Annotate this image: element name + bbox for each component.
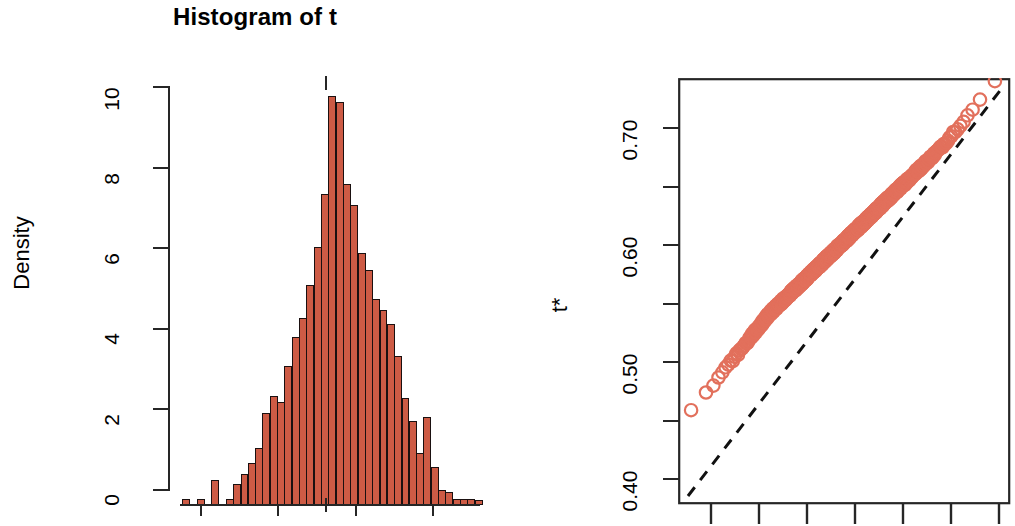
histogram-x-tickmark-2: [277, 504, 279, 516]
histogram-y-tick-10: 10: [100, 75, 124, 123]
histogram-y-tick-4: 4: [100, 319, 124, 359]
qq-scatter-area: [678, 78, 1015, 524]
histogram-y-tickmark-6: [153, 247, 170, 249]
qq-reference-line: [688, 88, 1002, 496]
histogram-bar: [211, 480, 219, 505]
page-title: Histogram of t: [0, 3, 510, 31]
histogram-y-tick-8: 8: [100, 159, 124, 199]
histogram-panel: Histogram of t Density 0 2 4 6 8 10: [0, 0, 510, 516]
histogram-y-tick-6: 6: [100, 239, 124, 279]
histogram-bars-area: [182, 85, 482, 505]
qq-panel: t* 0.40 0.50 0.60 0.70: [510, 0, 1015, 516]
histogram-y-axis-line: [168, 86, 170, 491]
qq-y-tick-050: 0.50: [618, 339, 642, 409]
histogram-y-tickmark-8: [153, 167, 170, 169]
histogram-x-tickmark-3: [355, 504, 357, 516]
histogram-y-tick-2: 2: [100, 400, 124, 440]
qq-y-tick-070: 0.70: [618, 105, 642, 175]
histogram-y-axis-label: Density: [9, 193, 35, 313]
histogram-y-tickmark-2: [153, 408, 170, 410]
qq-point-group: [685, 78, 1001, 416]
histogram-y-tick-0: 0: [100, 480, 124, 520]
qq-y-axis-label: t*: [547, 260, 573, 350]
histogram-rug-tick-top: [325, 76, 327, 90]
qq-y-tick-060: 0.60: [618, 222, 642, 292]
qq-point: [685, 404, 697, 416]
qq-x-tickmarks: [711, 503, 999, 524]
qq-point: [974, 93, 986, 105]
qq-point: [700, 386, 712, 398]
qq-y-tick-040: 0.40: [618, 456, 642, 526]
histogram-y-tickmark-0: [153, 489, 170, 491]
histogram-x-tickmark-4: [432, 504, 434, 516]
histogram-y-tickmark-4: [153, 328, 170, 330]
histogram-x-tickmark-1: [200, 504, 202, 516]
histogram-x-axis-line: [180, 504, 480, 506]
histogram-y-tickmark-10: [153, 86, 170, 88]
